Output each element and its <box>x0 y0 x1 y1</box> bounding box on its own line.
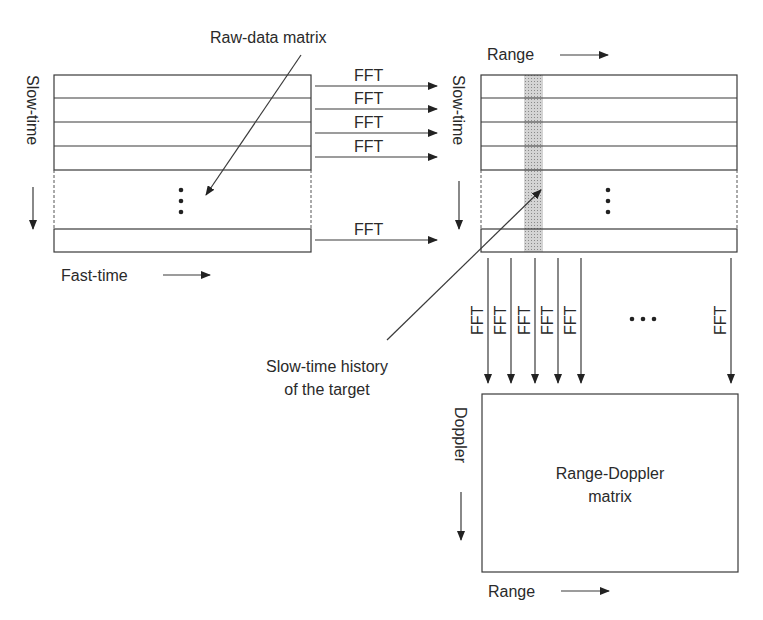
fft-label: FFT <box>354 221 384 238</box>
target-callout-line1: Slow-time history <box>266 358 388 375</box>
range-doppler-matrix <box>482 394 738 572</box>
range-top-label: Range <box>487 46 534 63</box>
fft-label: FFT <box>516 305 533 335</box>
raw-data-matrix <box>54 75 311 252</box>
slow-time-fft-arrows: FFT FFT FFT FFT FFT FFT <box>469 258 731 383</box>
fast-time-fft-arrows: FFT FFT FFT FFT FFT <box>315 67 437 240</box>
raw-data-callout-arrow <box>206 55 301 195</box>
fft-label: FFT <box>539 305 556 335</box>
fft-label: FFT <box>354 114 384 131</box>
fft-label: FFT <box>492 305 509 335</box>
range-slow-time-matrix <box>481 75 737 252</box>
fft-label: FFT <box>354 138 384 155</box>
fft-label: FFT <box>354 90 384 107</box>
fft-label: FFT <box>469 305 486 335</box>
range-slow-time-label: Slow-time <box>450 75 467 145</box>
rd-matrix-label-line2: matrix <box>588 488 632 505</box>
fft-label: FFT <box>712 305 729 335</box>
fft-label: FFT <box>354 67 384 84</box>
doppler-axis-label: Doppler <box>452 407 469 464</box>
fft-label: FFT <box>562 305 579 335</box>
target-range-bin-highlight <box>524 75 543 252</box>
raw-data-matrix-label: Raw-data matrix <box>210 29 326 46</box>
fast-time-label: Fast-time <box>61 267 128 284</box>
target-callout-line2: of the target <box>284 381 370 398</box>
range-doppler-diagram: Raw-data matrix Slow-time Fast-time FFT … <box>0 0 763 620</box>
rd-matrix-label-line1: Range-Doppler <box>556 465 665 482</box>
rd-range-label: Range <box>488 583 535 600</box>
raw-slow-time-label: Slow-time <box>24 75 41 145</box>
